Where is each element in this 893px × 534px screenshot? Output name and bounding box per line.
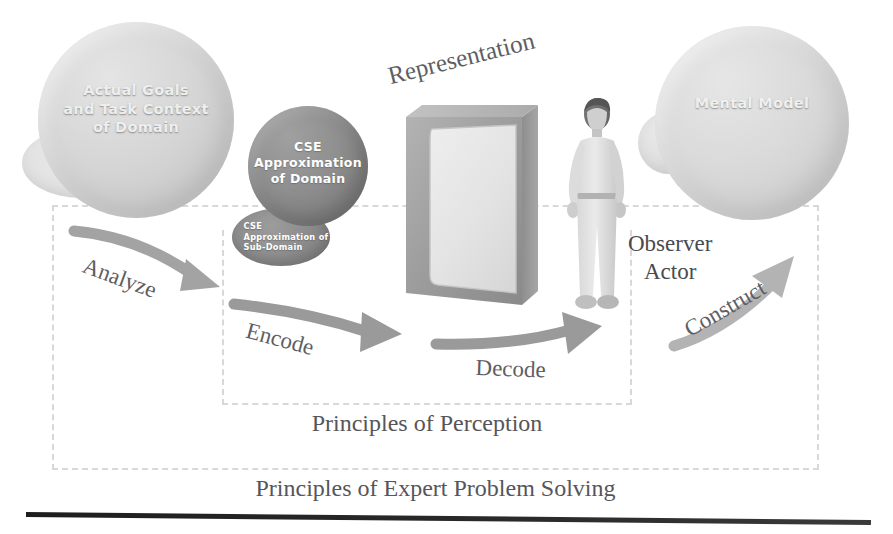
node-mental-model-label: Mental Model — [695, 94, 810, 113]
bottom-divider-rule — [26, 512, 871, 525]
node-cse-sub-label: CSE Approximation of Sub-Domain — [244, 221, 329, 253]
cse-line-2: Approximation — [254, 155, 362, 171]
diagram-canvas: Human Imposed Sub-Domain Actual Goals an… — [0, 0, 893, 534]
node-representation-display[interactable] — [398, 103, 544, 318]
domain-line-1: Actual Goals — [63, 81, 208, 100]
label-representation: Representation — [385, 27, 537, 90]
node-domain-label: Actual Goals and Task Context of Domain — [63, 81, 208, 137]
cse-sub-line-3: Sub-Domain — [244, 242, 329, 253]
node-cse-approximation-of-domain[interactable]: CSE Approximation of Domain — [248, 106, 368, 226]
node-mental-model[interactable]: Mental Model — [655, 26, 849, 220]
node-cse-label: CSE Approximation of Domain — [254, 139, 362, 187]
caption-principles-of-perception: Principles of Perception — [222, 410, 632, 437]
cse-line-3: of Domain — [254, 171, 362, 187]
label-decode: Decode — [475, 355, 546, 383]
label-actor-line: Actor — [628, 258, 712, 286]
caption-principles-of-expert-problem-solving: Principles of Expert Problem Solving — [52, 475, 819, 502]
node-actual-goals-and-task-context-of-domain[interactable]: Actual Goals and Task Context of Domain — [38, 22, 234, 218]
cse-sub-line-2: Approximation of — [244, 232, 329, 243]
label-observer-actor: Observer Actor — [628, 230, 712, 285]
label-observer-line: Observer — [628, 230, 712, 258]
cse-line-1: CSE — [254, 139, 362, 155]
domain-line-2: and Task Context — [63, 100, 208, 119]
observer-actor-figure[interactable] — [556, 96, 638, 322]
domain-line-3: of Domain — [63, 118, 208, 137]
